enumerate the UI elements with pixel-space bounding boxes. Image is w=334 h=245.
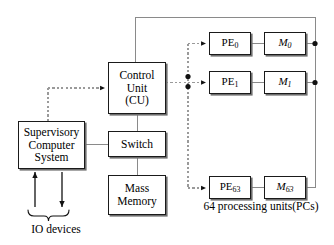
- junction-dot-m0: [312, 41, 317, 46]
- block-memory-63[interactable]: M63: [264, 176, 306, 199]
- block-diagram: Control Unit (CU) Switch Mass Memory Sup…: [0, 0, 334, 245]
- control-unit-line2: Unit: [127, 82, 147, 95]
- pe-1-label: PE1: [222, 75, 239, 90]
- memory-63-subscript: 63: [286, 185, 294, 194]
- block-pe-0[interactable]: PE0: [209, 32, 251, 55]
- block-pe-1[interactable]: PE1: [209, 71, 251, 94]
- control-unit-line3: (CU): [125, 94, 149, 107]
- block-supervisory-computer-system[interactable]: Supervisory Computer System: [18, 121, 85, 169]
- io-devices-brace: [28, 210, 69, 221]
- supervisory-line3: System: [35, 151, 69, 164]
- block-switch[interactable]: Switch: [108, 131, 166, 157]
- switch-label: Switch: [121, 138, 153, 151]
- memory-1-label: M1: [278, 75, 291, 90]
- caption-pcs-line1: 64 processing: [203, 200, 267, 212]
- caption-io-devices: IO devices: [8, 223, 104, 237]
- pe-0-label: PE0: [222, 36, 239, 51]
- block-mass-memory[interactable]: Mass Memory: [108, 175, 166, 215]
- supervisory-line2: Computer: [29, 139, 75, 152]
- pe-63-label: PE63: [220, 180, 241, 195]
- supervisory-line1: Supervisory: [24, 126, 80, 139]
- memory-0-label: M0: [278, 36, 291, 51]
- control-unit-line1: Control: [119, 69, 154, 82]
- block-memory-0[interactable]: M0: [264, 32, 306, 55]
- memory-63-label: M63: [276, 180, 293, 195]
- caption-pcs-line2: units(PCs): [270, 200, 319, 212]
- block-memory-1[interactable]: M1: [264, 71, 306, 94]
- pe-0-subscript: 0: [234, 41, 238, 50]
- mass-memory-line1: Mass: [125, 182, 149, 195]
- junction-dot-cu-out-lower: [185, 84, 190, 89]
- memory-1-subscript: 1: [288, 80, 292, 89]
- junction-dot-m1: [312, 80, 317, 85]
- pe-1-subscript: 1: [234, 80, 238, 89]
- memory-0-subscript: 0: [288, 41, 292, 50]
- mass-memory-line2: Memory: [117, 195, 157, 208]
- caption-processing-units: 64 processing units(PCs): [202, 200, 320, 214]
- io-devices-label: IO devices: [31, 223, 81, 235]
- block-pe-63[interactable]: PE63: [209, 176, 251, 199]
- block-control-unit[interactable]: Control Unit (CU): [108, 62, 166, 114]
- pe-63-subscript: 63: [232, 185, 240, 194]
- control-bus-dots: [185, 74, 190, 89]
- junction-dot-cu-out-upper: [185, 74, 190, 79]
